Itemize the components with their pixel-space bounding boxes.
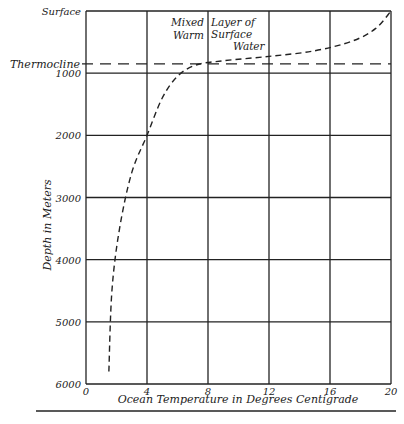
x-tick-label: 0 <box>83 386 90 397</box>
y-tick-label: 6000 <box>56 379 82 390</box>
annotation-text: Warm <box>173 29 204 41</box>
y-tick-label: 3000 <box>56 193 82 204</box>
y-tick-label: 4000 <box>55 255 82 266</box>
x-tick-label: 20 <box>384 386 398 397</box>
grid <box>86 11 391 384</box>
annotation-text: Surface <box>211 28 252 40</box>
y-tick-label: Surface <box>42 6 81 17</box>
annotation-text: Layer of <box>210 16 257 28</box>
y-tick-label: 5000 <box>56 317 82 328</box>
x-axis-label: Ocean Temperature in Degrees Centigrade <box>118 393 359 406</box>
y-tick-label: 2000 <box>55 130 82 141</box>
thermocline-label: Thermocline <box>10 58 81 71</box>
tick-labels: 048121620Surface100020003000400050006000 <box>42 6 398 397</box>
annotation-text: Water <box>233 40 266 52</box>
series-layer <box>109 11 391 372</box>
temperature-depth-chart: 048121620Surface100020003000400050006000… <box>0 0 404 424</box>
y-axis-label: Depth in Meters <box>41 179 54 271</box>
annotations: MixedWarmLayer ofSurfaceWater <box>170 16 266 52</box>
series-line-0 <box>109 11 391 372</box>
annotation-text: Mixed <box>170 16 204 28</box>
